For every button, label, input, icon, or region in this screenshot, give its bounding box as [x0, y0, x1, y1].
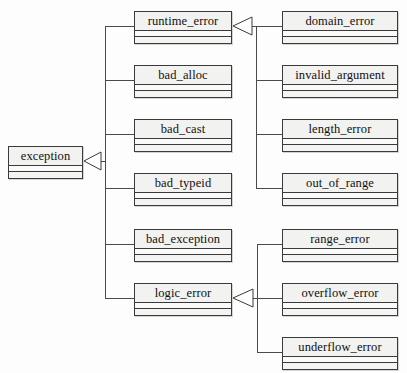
class-box-exception[interactable]: exception	[8, 146, 83, 179]
class-name-bad_exception: bad_exception	[135, 230, 231, 249]
class-operations-compartment	[135, 145, 231, 151]
class-name-length_error: length_error	[283, 120, 397, 139]
class-operations-compartment	[135, 309, 231, 315]
class-box-bad_typeid[interactable]: bad_typeid	[134, 173, 232, 206]
class-operations-compartment	[9, 172, 82, 178]
class-operations-compartment	[283, 363, 397, 369]
class-operations-compartment	[283, 37, 397, 43]
class-name-underflow_error: underflow_error	[283, 338, 397, 357]
arrow-to-exception	[84, 152, 101, 170]
class-name-bad_alloc: bad_alloc	[135, 66, 231, 85]
class-name-runtime_error: runtime_error	[135, 12, 231, 31]
class-box-bad_alloc[interactable]: bad_alloc	[134, 65, 232, 98]
class-name-exception: exception	[9, 147, 82, 166]
class-box-bad_cast[interactable]: bad_cast	[134, 119, 232, 152]
class-operations-compartment	[283, 145, 397, 151]
class-box-underflow_error[interactable]: underflow_error	[282, 337, 398, 370]
class-box-overflow_error[interactable]: overflow_error	[282, 283, 398, 316]
class-box-out_of_range[interactable]: out_of_range	[282, 173, 398, 206]
class-name-range_error: range_error	[283, 230, 397, 249]
class-name-bad_cast: bad_cast	[135, 120, 231, 139]
class-operations-compartment	[135, 37, 231, 43]
class-name-invalid_argument: invalid_argument	[283, 66, 397, 85]
class-name-logic_error: logic_error	[135, 284, 231, 303]
class-operations-compartment	[135, 255, 231, 261]
class-box-bad_exception[interactable]: bad_exception	[134, 229, 232, 262]
class-operations-compartment	[283, 91, 397, 97]
class-box-runtime_error[interactable]: runtime_error	[134, 11, 232, 44]
class-name-bad_typeid: bad_typeid	[135, 174, 231, 193]
class-name-domain_error: domain_error	[283, 12, 397, 31]
class-operations-compartment	[135, 199, 231, 205]
class-box-domain_error[interactable]: domain_error	[282, 11, 398, 44]
class-box-range_error[interactable]: range_error	[282, 229, 398, 262]
arrow-to-logic-error	[233, 289, 253, 307]
class-operations-compartment	[135, 91, 231, 97]
class-operations-compartment	[283, 309, 397, 315]
class-name-out_of_range: out_of_range	[283, 174, 397, 193]
class-operations-compartment	[283, 199, 397, 205]
arrow-to-runtime-error	[233, 17, 252, 35]
class-operations-compartment	[283, 255, 397, 261]
class-name-overflow_error: overflow_error	[283, 284, 397, 303]
uml-class-diagram: exceptionruntime_errorbad_allocbad_castb…	[0, 0, 407, 373]
class-box-logic_error[interactable]: logic_error	[134, 283, 232, 316]
class-box-invalid_argument[interactable]: invalid_argument	[282, 65, 398, 98]
class-box-length_error[interactable]: length_error	[282, 119, 398, 152]
